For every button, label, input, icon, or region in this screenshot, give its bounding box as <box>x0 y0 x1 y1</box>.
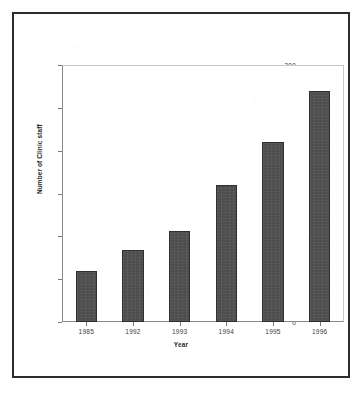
x-tick-mark <box>133 322 134 326</box>
bar-series <box>63 65 343 322</box>
x-axis-title: Year <box>14 341 348 348</box>
y-axis-title: Number of Clinic staff <box>36 124 43 194</box>
bar-slot <box>169 65 190 322</box>
bar-1994 <box>216 185 237 322</box>
bar-slot <box>216 65 237 322</box>
y-tick-mark <box>58 322 62 323</box>
x-tick-label: 1995 <box>265 328 280 335</box>
bar-1985 <box>76 271 97 322</box>
x-tick-mark <box>226 322 227 326</box>
x-tick-mark <box>86 322 87 326</box>
chart-frame-border: Number of Clinic staff 05010015020025030… <box>12 12 350 378</box>
bar-1993 <box>169 231 190 322</box>
x-tick-mark <box>320 322 321 326</box>
bar-slot <box>262 65 283 322</box>
x-tick-label: 1993 <box>172 328 187 335</box>
bar-slot <box>309 65 330 322</box>
bar-1995 <box>262 142 283 322</box>
bar-slot <box>122 65 143 322</box>
x-tick-mark <box>273 322 274 326</box>
bar-1992 <box>122 250 143 322</box>
bar-slot <box>76 65 97 322</box>
x-tick-label: 1985 <box>79 328 94 335</box>
x-tick-label: 1992 <box>125 328 140 335</box>
x-tick-mark <box>180 322 181 326</box>
figure-canvas: Number of Clinic staff 05010015020025030… <box>0 0 364 397</box>
bar-1996 <box>309 91 330 322</box>
x-tick-label: 1994 <box>219 328 234 335</box>
x-tick-label: 1996 <box>312 328 327 335</box>
